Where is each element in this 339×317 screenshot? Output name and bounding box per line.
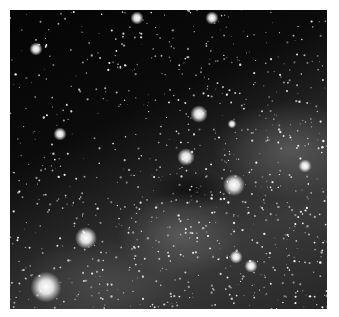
stars-layer: [10, 10, 327, 309]
bright-star: [177, 148, 195, 166]
bright-star: [130, 11, 143, 24]
bright-star: [75, 227, 97, 249]
bright-star: [31, 272, 62, 303]
bright-star: [298, 159, 311, 172]
bright-star: [53, 127, 66, 140]
bright-star: [223, 174, 245, 196]
bright-star: [244, 259, 257, 272]
bright-star: [29, 42, 42, 55]
starfield-photo: [10, 10, 327, 309]
bright-star: [229, 250, 242, 263]
bright-star: [205, 11, 218, 24]
bright-star: [190, 105, 208, 123]
bright-star: [228, 120, 237, 129]
